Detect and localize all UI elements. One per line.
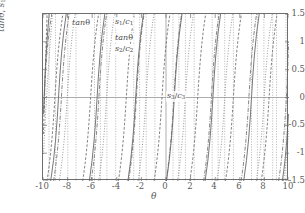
x-tick-label: 10 [276,182,300,191]
x-tick-label: 0 [153,182,177,191]
x-tick-label: -2 [128,182,152,191]
x-tick-label: 6 [227,182,251,191]
plot-area: tanθ s1/c1 tanθ s2/c2 s3/c3 [42,13,288,180]
annotation-s2-over-c2: s2/c2 [114,44,134,55]
annotation-tan-theta-mid: tanθ [114,33,134,42]
x-tick-label: -10 [30,182,54,191]
x-axis-label: θ [151,191,156,201]
x-tick-label: -4 [104,182,128,191]
x-tick-label: -8 [55,182,79,191]
x-tick-label: 4 [202,182,226,191]
annotation-s1-over-c1: s1/c1 [114,17,134,28]
figure-root: tanθ, s1/c1, s2/c2, s3/c3 1.5 1 0.5 0 -0… [0,0,305,213]
annotation-tan-theta-left: tanθ [71,18,91,27]
annotation-s3-over-c3: s3/c3 [166,91,186,102]
x-tick-label: 8 [251,182,275,191]
y-axis-label: tanθ, s1/c1, s2/c2, s3/c3 [0,0,8,40]
x-tick-label: 2 [178,182,202,191]
x-tick-label: -6 [79,182,103,191]
